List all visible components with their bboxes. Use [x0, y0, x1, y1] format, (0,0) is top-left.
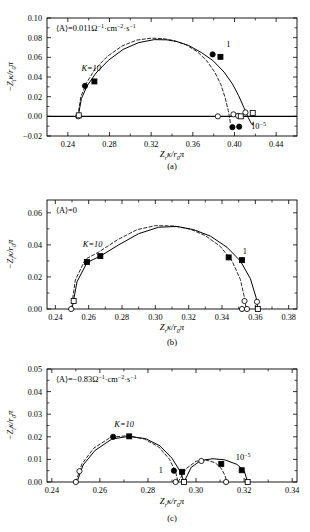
y-tick-label: 0.02 — [28, 93, 42, 102]
curve-solid-curve-arc1 — [77, 436, 184, 482]
marker-filled-circle — [230, 125, 235, 130]
y-tick-label: 0.02 — [28, 273, 42, 282]
marker-open-circle — [173, 479, 178, 484]
marker-open-square — [255, 307, 260, 312]
marker-filled-square — [92, 79, 97, 84]
x-tick-label: 0.32 — [237, 486, 251, 495]
y-axis-label: −Ziκ/r0π — [5, 239, 17, 269]
marker-open-circle — [223, 479, 228, 484]
marker-open-circle — [242, 298, 247, 303]
curve-solid-curve — [72, 226, 258, 309]
marker-filled-circle — [111, 434, 116, 439]
panel-caption: (c) — [167, 513, 177, 523]
marker-open-circle — [73, 479, 78, 484]
label-one: 1 — [226, 40, 230, 49]
x-tick-label: 0.30 — [148, 313, 162, 322]
marker-filled-square — [226, 255, 231, 260]
annotation-mean-A: ⟨A⟩=−0.83Ω−1·cm−2·s−1 — [56, 374, 137, 384]
nyquist-figure: 0.240.280.320.360.400.44−0.020.000.020.0… — [0, 0, 310, 532]
panel-caption: (a) — [167, 161, 177, 171]
annotation-mean-A: ⟨A⟩=0.011Ω−1·cm−2·s−1 — [56, 23, 136, 33]
curve-solid-curve — [78, 40, 253, 126]
y-tick-label: 0.10 — [28, 14, 42, 23]
marker-filled-square — [219, 461, 224, 466]
x-tick-label: 0.38 — [282, 313, 296, 322]
marker-filled-circle — [237, 124, 242, 129]
x-tick-label: 0.26 — [93, 486, 107, 495]
y-tick-label: 0.04 — [28, 241, 42, 250]
marker-open-circle — [244, 306, 249, 311]
panel-a: 0.240.280.320.360.400.44−0.020.000.020.0… — [0, 0, 310, 178]
x-tick-label: 0.24 — [45, 486, 59, 495]
x-tick-label: 0.44 — [269, 140, 283, 149]
marker-filled-circle — [210, 52, 215, 57]
label-k-10: K=10 — [113, 420, 134, 429]
x-tick-label: 0.36 — [248, 313, 262, 322]
x-axis-label: Zrκ/r0π — [160, 149, 185, 161]
marker-open-circle — [239, 306, 244, 311]
marker-open-square — [238, 114, 243, 119]
x-tick-label: 0.32 — [182, 313, 196, 322]
y-tick-label: 0.00 — [28, 478, 42, 487]
y-tick-label: 0.02 — [28, 433, 42, 442]
marker-filled-square — [239, 468, 244, 473]
curve-dashed-curve — [71, 226, 246, 309]
y-axis-label: −Ziκ/r0π — [5, 410, 17, 440]
y-tick-label: 0.01 — [28, 455, 42, 464]
panel-b: 0.240.260.280.300.320.340.360.380.000.02… — [0, 178, 310, 355]
marker-filled-square — [180, 469, 185, 474]
curve-solid-curve-arc2 — [184, 459, 248, 482]
y-tick-label: 0.03 — [28, 410, 42, 419]
x-tick-label: 0.28 — [115, 313, 129, 322]
panel-a-plot: 0.240.280.320.360.400.44−0.020.000.020.0… — [0, 0, 310, 178]
label-low-frequency: 10−5 — [251, 121, 266, 131]
label-k-10: K=10 — [80, 64, 101, 73]
label-low-frequency: 10−5 — [236, 452, 251, 462]
marker-filled-circle — [82, 83, 87, 88]
marker-open-circle — [254, 299, 259, 304]
y-tick-label: 0.00 — [28, 305, 42, 314]
curve-dashed-curve — [78, 38, 231, 123]
x-axis-label: Zrκ/r0π — [160, 496, 185, 508]
x-tick-label: 0.26 — [82, 313, 96, 322]
marker-open-circle — [199, 458, 204, 463]
marker-open-square — [76, 113, 81, 118]
curve-dashed-curve-arc1 — [76, 436, 178, 482]
x-tick-label: 0.28 — [102, 140, 116, 149]
marker-open-circle — [215, 114, 220, 119]
x-axis-label: Zrκ/r0π — [160, 322, 185, 334]
x-tick-label: 0.30 — [189, 486, 203, 495]
label-k-10: K=10 — [82, 240, 103, 249]
y-tick-label: 0.04 — [28, 73, 42, 82]
x-tick-label: 0.24 — [61, 140, 75, 149]
y-axis-label: −Ziκ/r0π — [5, 62, 17, 92]
marker-filled-square — [240, 258, 245, 263]
marker-filled-square — [218, 54, 223, 59]
x-tick-label: 0.24 — [48, 313, 62, 322]
x-tick-label: 0.34 — [215, 313, 229, 322]
y-tick-label: 0.00 — [28, 112, 42, 121]
plot-frame — [47, 200, 297, 309]
marker-open-circle — [77, 469, 82, 474]
marker-open-square — [245, 480, 250, 485]
plot-frame — [47, 18, 297, 136]
marker-filled-square — [98, 254, 103, 259]
annotation-mean-A: ⟨A⟩=0 — [56, 206, 77, 215]
y-tick-label: −0.02 — [23, 132, 42, 141]
x-tick-label: 0.40 — [227, 140, 241, 149]
panel-b-plot: 0.240.260.280.300.320.340.360.380.000.02… — [0, 178, 310, 355]
label-one: 1 — [243, 247, 247, 256]
y-tick-label: 0.08 — [28, 34, 42, 43]
marker-open-square — [71, 298, 76, 303]
marker-filled-square — [85, 260, 90, 265]
x-tick-label: 0.36 — [186, 140, 200, 149]
x-tick-label: 0.28 — [141, 486, 155, 495]
y-tick-label: 0.05 — [28, 365, 42, 374]
marker-open-square — [250, 110, 255, 115]
panel-c: 0.240.260.280.300.320.340.000.010.020.03… — [0, 355, 310, 532]
label-one: 1 — [159, 466, 163, 475]
panel-c-plot: 0.240.260.280.300.320.340.000.010.020.03… — [0, 355, 310, 532]
marker-filled-circle — [171, 468, 176, 473]
marker-open-square — [182, 480, 187, 485]
y-tick-label: 0.06 — [28, 53, 42, 62]
